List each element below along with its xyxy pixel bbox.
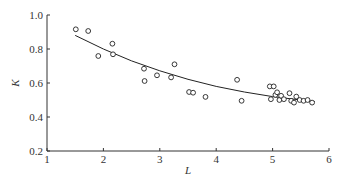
- data-point: [86, 29, 91, 34]
- data-point: [111, 52, 116, 57]
- x-tick-label: 3: [157, 153, 163, 165]
- x-tick-label: 6: [326, 153, 332, 165]
- data-point: [169, 75, 174, 80]
- scatter-chart: 1234560.20.40.60.81.0 L K: [0, 0, 346, 187]
- data-point: [271, 84, 276, 89]
- data-point: [191, 90, 196, 95]
- axes: 1234560.20.40.60.81.0: [29, 9, 332, 165]
- y-axis-label: K: [9, 79, 21, 88]
- data-point: [142, 66, 147, 71]
- data-point: [239, 98, 244, 103]
- data-point: [287, 91, 292, 96]
- y-tick-label: 0.8: [29, 43, 43, 55]
- x-tick-label: 1: [44, 153, 50, 165]
- x-tick-label: 2: [101, 153, 107, 165]
- y-tick-label: 1.0: [29, 9, 43, 21]
- data-point: [305, 98, 310, 103]
- data-point: [235, 77, 240, 82]
- data-point: [155, 73, 160, 78]
- data-point: [269, 97, 274, 102]
- x-tick-label: 4: [213, 153, 219, 165]
- data-point: [96, 54, 101, 59]
- data-point: [282, 97, 287, 102]
- data-points: [73, 27, 314, 105]
- data-point: [142, 79, 147, 84]
- data-point: [292, 100, 297, 105]
- x-axis-label: L: [184, 164, 191, 176]
- x-tick-label: 5: [270, 153, 276, 165]
- y-tick-label: 0.6: [29, 77, 43, 89]
- y-tick-label: 0.4: [29, 111, 43, 123]
- data-point: [73, 27, 78, 32]
- data-point: [110, 41, 115, 46]
- y-tick-label: 0.2: [29, 145, 43, 157]
- data-point: [310, 100, 315, 105]
- data-point: [172, 62, 177, 67]
- data-point: [203, 95, 208, 100]
- data-point: [275, 90, 280, 95]
